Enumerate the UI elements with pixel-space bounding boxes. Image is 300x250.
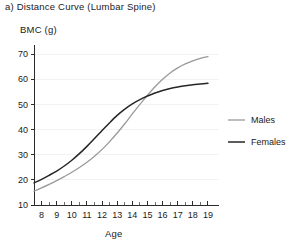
x-axis-tick-label: 19	[203, 210, 213, 220]
plot-area: 10203040506070 8910111213141516171819 Ma…	[0, 0, 300, 250]
y-axis-tick-label: 20	[18, 175, 28, 185]
chart-figure: a) Distance Curve (Lumbar Spine) BMC (g)…	[0, 0, 300, 250]
x-axis-tick-group: 8910111213141516171819	[34, 201, 213, 221]
x-axis-tick-label: 12	[97, 210, 107, 220]
data-series-group	[34, 57, 208, 192]
y-axis-tick-group: 10203040506070	[18, 49, 34, 210]
series-line-males	[34, 57, 208, 192]
x-axis-tick-label: 8	[39, 210, 44, 220]
y-axis-tick-label: 30	[18, 150, 28, 160]
legend-label-females: Females	[251, 137, 286, 147]
gridline-group	[34, 54, 219, 205]
axis-line-group	[34, 45, 219, 205]
x-axis-tick-label: 10	[67, 210, 77, 220]
x-axis-tick-label: 17	[173, 210, 183, 220]
x-axis-tick-label: 16	[158, 210, 168, 220]
y-axis-tick-label: 40	[18, 125, 28, 135]
y-axis-tick-label: 50	[18, 100, 28, 110]
x-axis-tick-label: 9	[54, 210, 59, 220]
x-axis-tick-label: 11	[82, 210, 91, 220]
y-axis-tick-label: 70	[18, 49, 28, 59]
legend-label-males: Males	[251, 115, 276, 125]
x-axis-tick-label: 14	[127, 210, 137, 220]
y-axis-tick-label: 60	[18, 74, 28, 84]
series-line-females	[34, 83, 208, 183]
legend: MalesFemales	[228, 115, 286, 147]
y-axis-tick-label: 10	[18, 200, 28, 210]
x-axis-tick-label: 18	[188, 210, 198, 220]
x-axis-tick-label: 13	[112, 210, 122, 220]
x-axis-tick-label: 15	[142, 210, 152, 220]
